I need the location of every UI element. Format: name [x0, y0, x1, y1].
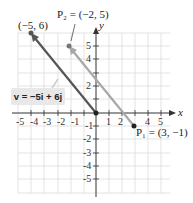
- vector-label: v = −5i + 6j: [11, 88, 65, 105]
- x-tick-label: -3: [43, 117, 51, 127]
- y-tick-label: -4: [83, 161, 91, 171]
- y-tick-label: 4: [86, 54, 91, 64]
- x-axis-arrow-icon: [169, 110, 176, 116]
- x-tick-label: -4: [30, 117, 38, 127]
- y-axis-label: y: [99, 20, 104, 31]
- y-tick-label: -1: [85, 121, 93, 131]
- p2-leader-line: [71, 24, 75, 41]
- y-tick-label: -3: [83, 148, 91, 158]
- point-p2: [67, 44, 72, 49]
- p1-point-label: P₁ = (3, −1): [136, 127, 188, 138]
- displacement-vector: [72, 50, 134, 126]
- y-tick-label: -5: [83, 174, 91, 184]
- y-tick-label: -2: [83, 134, 91, 144]
- p2-point-label: P₂ = (−2, 5): [57, 9, 109, 20]
- vector-label-leader-line: [52, 79, 58, 88]
- x-tick-label: -1: [71, 117, 79, 127]
- point-origin: [94, 111, 99, 116]
- x-tick-label: 2: [118, 117, 123, 127]
- y-tick-label: 5: [86, 41, 91, 51]
- x-tick-label: -2: [57, 117, 65, 127]
- point-tip: [29, 31, 34, 36]
- tip-point-label: (−5, 6): [18, 20, 48, 31]
- y-tick-label: 2: [86, 81, 91, 91]
- x-axis-label: x: [178, 107, 183, 118]
- x-tick-label: 1: [106, 117, 111, 127]
- x-tick-label: -5: [16, 117, 24, 127]
